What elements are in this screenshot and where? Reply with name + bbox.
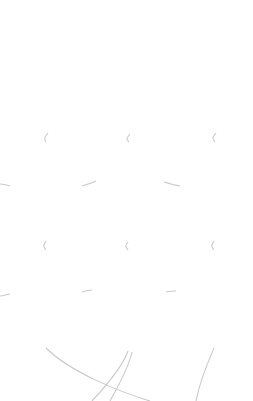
string-segment (0, 294, 10, 296)
balloon-diagram-canvas (0, 0, 253, 401)
string-segment (110, 352, 132, 401)
string-segment (166, 291, 176, 292)
string-segment (126, 242, 128, 250)
string-segment (82, 181, 96, 186)
string-segment (164, 182, 180, 186)
string-segment (213, 133, 216, 142)
string-segment (92, 351, 128, 401)
string-segment (44, 241, 46, 250)
string-segment (0, 184, 10, 186)
string-segment (196, 348, 214, 401)
balloon-strings-layer (0, 0, 253, 401)
string-segment (82, 290, 92, 292)
string-segment (45, 133, 48, 142)
string-segment (46, 348, 150, 401)
string-segment (212, 241, 214, 250)
string-segment (127, 134, 130, 142)
